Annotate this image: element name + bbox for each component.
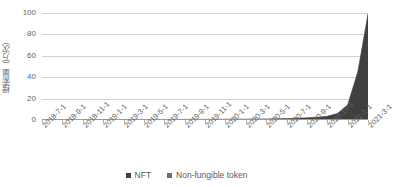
y-axis-title-label: 搜索量（万次）	[3, 37, 11, 93]
y-axis-title: 搜索量（万次）	[0, 0, 14, 130]
y-axis-tick-label: 20	[27, 95, 36, 103]
legend-label: Non-fungible token	[176, 171, 247, 180]
chart-legend: NFTNon-fungible token	[0, 167, 373, 183]
y-axis-tick-label: 60	[27, 52, 36, 60]
legend-swatch-icon	[167, 173, 172, 178]
y-axis-tick-label: 40	[27, 73, 36, 81]
y-axis-tick-label: 0	[32, 116, 36, 124]
legend-swatch-icon	[126, 173, 131, 178]
legend-item[interactable]: Non-fungible token	[167, 171, 247, 180]
legend-label: NFT	[135, 171, 152, 180]
x-axis-tick-labels: 2018-7-12018-9-12018-11-12019-1-12019-3-…	[0, 124, 373, 162]
y-axis-tick-labels: 020406080100	[14, 13, 39, 120]
legend-item[interactable]: NFT	[126, 171, 152, 180]
y-axis-tick-label: 100	[23, 9, 36, 17]
y-axis-tick-label: 80	[27, 30, 36, 38]
